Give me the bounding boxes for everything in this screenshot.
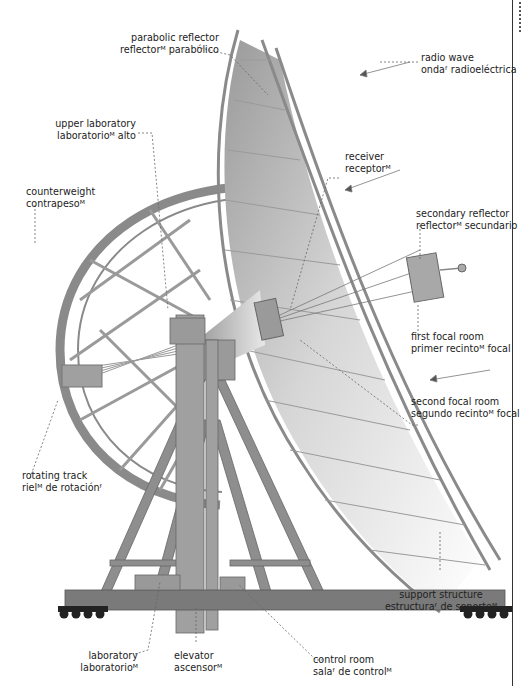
- label-support-structure: support structure estructuraᶠ de soporte…: [370, 589, 512, 612]
- label-en: secondary reflector: [416, 208, 517, 220]
- label-es: ondaᶠ radioeléctrica: [421, 64, 517, 76]
- label-en: support structure: [370, 589, 512, 601]
- label-parabolic-reflector: parabolic reflector reflectorᴹ parabólic…: [120, 32, 219, 55]
- label-es: primer recintoᴹ focal: [411, 343, 511, 355]
- label-es: receptorᴹ: [345, 163, 391, 175]
- page-edge-line: [512, 0, 513, 686]
- label-en: radio wave: [421, 52, 517, 64]
- label-es: ascensorᴹ: [174, 662, 222, 674]
- label-es: estructuraᶠ de soporteᴹ: [370, 601, 512, 613]
- label-es: rielᴹ de rotaciónᶠ: [22, 482, 102, 494]
- label-upper-laboratory: upper laboratory laboratorioᴹ alto: [55, 118, 136, 141]
- upper-laboratory: [170, 318, 205, 344]
- label-es: reflectorᴹ secundario: [416, 220, 517, 232]
- label-es: contrapesoᴹ: [26, 198, 95, 210]
- label-en: first focal room: [411, 331, 511, 343]
- label-elevator: elevator ascensorᴹ: [174, 650, 222, 673]
- label-es: laboratorioᴹ: [60, 662, 138, 674]
- label-en: control room: [313, 654, 392, 666]
- label-control-room: control room salaᶠ de controlᴹ: [313, 654, 392, 677]
- label-laboratory: laboratory laboratorioᴹ: [60, 650, 138, 673]
- label-es: salaᶠ de controlᴹ: [313, 666, 392, 678]
- label-rotating-track: rotating track rielᴹ de rotaciónᶠ: [22, 470, 102, 493]
- label-en: parabolic reflector: [120, 32, 219, 44]
- label-first-focal-room: first focal room primer recintoᴹ focal: [411, 331, 511, 354]
- elevator-shaft: [176, 315, 218, 633]
- label-es: laboratorioᴹ alto: [55, 130, 136, 142]
- laboratory-room: [135, 575, 180, 590]
- label-es: segundo recintoᴹ focal: [411, 408, 520, 420]
- control-room: [220, 577, 245, 590]
- label-en: counterweight: [26, 186, 95, 198]
- label-en: rotating track: [22, 470, 102, 482]
- label-secondary-reflector: secondary reflector reflectorᴹ secundari…: [416, 208, 517, 231]
- label-en: upper laboratory: [55, 118, 136, 130]
- label-second-focal-room: second focal room segundo recintoᴹ focal: [411, 396, 520, 419]
- label-en: second focal room: [411, 396, 520, 408]
- label-en: elevator: [174, 650, 222, 662]
- label-en: laboratory: [60, 650, 138, 662]
- secondary-reflector: [406, 253, 466, 303]
- label-radio-wave: radio wave ondaᶠ radioeléctrica: [421, 52, 517, 75]
- label-en: receiver: [345, 151, 391, 163]
- label-es: reflectorᴹ parabólico: [120, 44, 219, 56]
- label-receiver: receiver receptorᴹ: [345, 151, 391, 174]
- label-counterweight: counterweight contrapesoᴹ: [26, 186, 95, 209]
